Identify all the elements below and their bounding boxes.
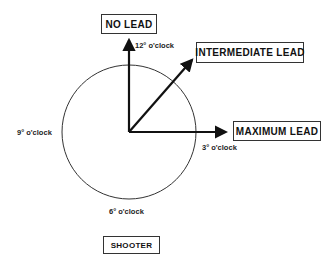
twelve-oclock-label: 12° o'clock: [135, 41, 174, 50]
three-oclock-label: 3° o'clock: [202, 143, 237, 152]
six-oclock-label: 6° o'clock: [109, 207, 144, 216]
intermediate-lead-box: INTERMEDIATE LEAD: [196, 42, 304, 63]
intermediate-lead-arrow: [129, 60, 192, 132]
shooter-box: SHOOTER: [103, 236, 160, 254]
nine-oclock-label: 9° o'clock: [17, 128, 52, 137]
maximum-lead-box: MAXIMUM LEAD: [233, 121, 321, 141]
no-lead-box: NO LEAD: [101, 14, 157, 34]
